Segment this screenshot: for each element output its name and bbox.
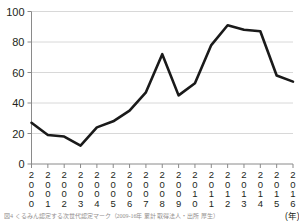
x-tick-label-char: 3: [75, 199, 87, 209]
x-tick-label-char: 1: [205, 199, 217, 209]
x-tick-label: 2014: [254, 170, 266, 208]
x-tick-label-char: 0: [189, 199, 201, 209]
x-tick-label: 2009: [173, 170, 185, 208]
x-tick-label: 2006: [124, 170, 136, 208]
chart-figure: 020406080100 200020012002200320042005200…: [0, 0, 299, 222]
x-tick-label-char: 2: [58, 199, 70, 209]
x-tick-label: 2004: [91, 170, 103, 208]
x-tick-label: 2012: [222, 170, 234, 208]
x-tick-label-char: 4: [91, 199, 103, 209]
x-tick-label: 2000: [26, 170, 38, 208]
x-tick-label: 2005: [107, 170, 119, 208]
x-tick-label: 2007: [140, 170, 152, 208]
y-tick-label: 80: [12, 36, 24, 48]
x-tick-label: 2003: [75, 170, 87, 208]
x-tick-label-char: 3: [238, 199, 250, 209]
y-tick-labels: 020406080100: [6, 6, 24, 171]
x-tick-label-char: 1: [42, 199, 54, 209]
x-tick-label: 2002: [58, 170, 70, 208]
x-tick-label-char: 2: [222, 199, 234, 209]
x-tick-label-char: 6: [287, 199, 299, 209]
x-tick-label: 2016: [287, 170, 299, 208]
x-tick-marks: [32, 164, 294, 168]
x-tick-label-char: 8: [156, 199, 168, 209]
y-tick-label: 0: [18, 158, 24, 170]
y-tick-label: 60: [12, 67, 24, 79]
x-tick-label-char: 6: [124, 199, 136, 209]
x-tick-label: 2010: [189, 170, 201, 208]
x-tick-label-char: 9: [173, 199, 185, 209]
y-tick-label: 20: [12, 128, 24, 140]
x-tick-label-char: 4: [254, 199, 266, 209]
x-tick-label: 2011: [205, 170, 217, 208]
x-tick-label-char: 5: [271, 199, 283, 209]
x-tick-label-char: 7: [140, 199, 152, 209]
x-tick-label: 2008: [156, 170, 168, 208]
x-tick-label: 2001: [42, 170, 54, 208]
x-tick-label: 2015: [271, 170, 283, 208]
x-tick-label-char: 0: [26, 199, 38, 209]
y-tick-marks: [28, 12, 32, 165]
y-tick-label: 40: [12, 97, 24, 109]
x-tick-label: 2013: [238, 170, 250, 208]
data-series-line: [32, 25, 294, 145]
figure-caption: 図4 くるみん認定する次世代認定マーク（2009-16年 累計 取得法人・出所 …: [4, 213, 296, 220]
y-tick-label: 100: [6, 6, 24, 18]
x-tick-label-char: 5: [107, 199, 119, 209]
